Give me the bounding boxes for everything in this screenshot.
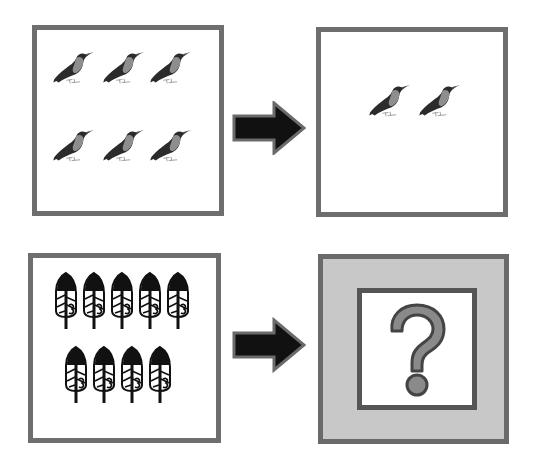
feather-icon [165,271,191,331]
bird-icon [101,126,147,166]
source-count: 9 [33,258,34,259]
bird-icon [148,48,194,88]
right-arrow-icon [232,101,306,155]
bird-icon [51,126,97,166]
bird-icon [367,81,413,121]
feather-icon [63,345,89,405]
feather-icon [53,271,79,331]
source-count: 6 [37,30,38,31]
answer-inner-frame: ? [357,288,477,410]
feather-icon [109,271,135,331]
bird-icon [148,126,194,166]
result-count: 2 [321,32,322,33]
source-panel-birds: 6 [32,25,224,216]
right-arrow-icon [232,317,306,373]
feather-icon [91,345,117,405]
feather-icon [81,271,107,331]
question-mark-icon [382,301,452,401]
feather-icon [119,345,145,405]
feather-icon [137,271,163,331]
answer-panel-unknown[interactable]: ? [318,254,509,444]
bird-icon [51,48,97,88]
feather-icon [147,345,173,405]
bird-icon [417,81,463,121]
source-panel-feathers: 9 [28,253,221,443]
question-symbol: ? [362,293,363,294]
result-panel-birds: 2 [316,27,508,217]
bird-icon [101,48,147,88]
